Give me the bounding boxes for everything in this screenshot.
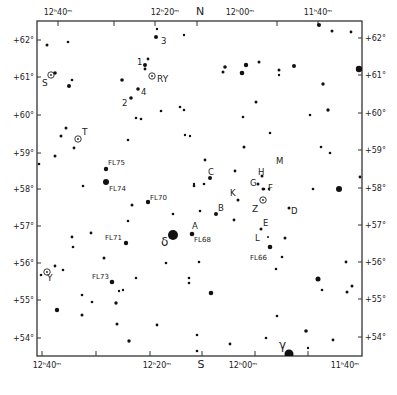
stars	[38, 23, 362, 359]
star	[110, 280, 115, 285]
variable-center-dot	[50, 74, 52, 76]
star	[122, 289, 124, 291]
star	[179, 106, 182, 109]
star	[204, 159, 207, 162]
star-label: FL74	[109, 185, 126, 193]
star	[244, 63, 248, 67]
star	[332, 339, 335, 342]
star	[234, 170, 237, 173]
bottom-axis-label: 12ʰ20ᵐ	[143, 361, 172, 370]
left-axis-label: +61°	[13, 73, 34, 82]
variable-center-dot	[77, 138, 79, 140]
star	[331, 30, 334, 33]
right-axis-label: +56°	[365, 258, 386, 267]
axis-labels: 12ʰ40ᵐ12ʰ20ᵐN12ʰ00ᵐ11ʰ40ᵐ12ʰ40ᵐ12ʰ20ᵐS12…	[13, 5, 386, 371]
star-label: 1	[137, 57, 142, 67]
star	[156, 324, 159, 327]
star-label: M	[276, 156, 283, 166]
right-axis-label: +57°	[365, 221, 386, 230]
star	[81, 314, 84, 317]
star	[336, 186, 342, 192]
star	[73, 147, 76, 150]
top-axis-label: 12ʰ40ᵐ	[44, 8, 73, 17]
star-label: FL68	[194, 236, 211, 244]
star	[160, 110, 163, 113]
star	[269, 132, 272, 135]
star-label: FL73	[92, 273, 109, 281]
variable-label: T	[81, 127, 88, 137]
star	[317, 23, 321, 27]
star	[135, 117, 138, 120]
star-label: FL75	[108, 159, 125, 167]
star	[312, 188, 315, 191]
star	[140, 118, 143, 121]
star	[129, 96, 133, 100]
star	[193, 185, 196, 188]
left-axis-label: +57°	[13, 222, 34, 231]
star-label: FL70	[150, 194, 167, 202]
star	[144, 68, 147, 71]
star	[257, 183, 260, 186]
star	[124, 241, 128, 245]
star	[281, 256, 284, 259]
star	[103, 257, 106, 260]
star	[278, 69, 281, 72]
variable-star-s: S	[42, 72, 54, 88]
star	[67, 41, 70, 44]
star	[284, 237, 287, 240]
star	[46, 44, 49, 47]
variable-star-markers: SRYTZY	[42, 72, 266, 283]
variable-center-dot	[262, 199, 264, 201]
left-axis-label: +60°	[13, 111, 34, 120]
variable-star-y: Y	[44, 269, 53, 283]
star	[154, 35, 158, 39]
star	[71, 236, 74, 239]
top-axis-label: 11ʰ40ᵐ	[304, 8, 333, 17]
star-label: G	[250, 178, 257, 188]
star	[320, 146, 323, 149]
star	[350, 31, 353, 34]
star	[321, 82, 324, 85]
bottom-axis-label: 11ʰ40ᵐ	[331, 361, 360, 370]
star	[81, 294, 84, 297]
star-label: 2	[122, 98, 127, 108]
star	[265, 337, 268, 340]
star	[183, 34, 185, 36]
star-label: D	[291, 206, 298, 216]
star-label: 4	[141, 87, 146, 97]
star	[222, 71, 225, 74]
variable-label: Y	[46, 273, 53, 283]
star-label: A	[192, 221, 198, 231]
star	[326, 108, 329, 111]
star	[351, 285, 354, 288]
star	[184, 134, 186, 136]
star	[65, 127, 68, 130]
star	[136, 87, 140, 91]
star	[242, 116, 245, 119]
star-label: F	[268, 183, 273, 193]
star	[188, 282, 191, 285]
left-axis-label: +62°	[13, 36, 34, 45]
right-axis-label: +60°	[365, 109, 386, 118]
top-axis-label: N	[196, 5, 204, 18]
star	[127, 220, 130, 223]
variable-label: Z	[252, 204, 258, 214]
star	[198, 261, 201, 264]
star	[183, 109, 186, 112]
top-axis-label: 12ʰ00ᵐ	[226, 8, 255, 17]
star	[127, 339, 130, 342]
star	[263, 188, 266, 191]
star	[91, 301, 94, 304]
star	[223, 65, 227, 69]
star	[72, 246, 75, 249]
star	[346, 291, 349, 294]
star	[90, 232, 93, 235]
left-axis-label: +58°	[13, 185, 34, 194]
star	[189, 135, 191, 137]
bottom-axis-label: 12ʰ40ᵐ	[33, 361, 62, 370]
star	[127, 139, 130, 142]
star	[38, 163, 41, 166]
star	[304, 329, 308, 333]
star	[233, 219, 236, 222]
left-axis-label: +55°	[13, 296, 34, 305]
